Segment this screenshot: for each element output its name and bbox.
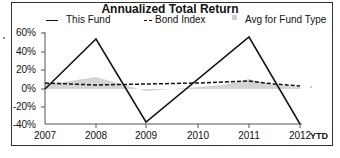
y-ticks xyxy=(41,33,45,107)
plot-area xyxy=(0,0,340,158)
x-ticks xyxy=(96,124,300,128)
